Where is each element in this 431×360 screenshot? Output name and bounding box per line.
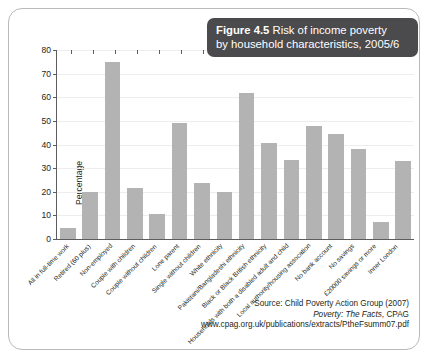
source-line-1: Source: Child Poverty Action Group (2007…: [139, 299, 409, 310]
bar: [328, 134, 344, 239]
figure-container: Figure 4.5 Risk of income poverty by hou…: [0, 0, 431, 360]
figure-title-banner: Figure 4.5 Risk of income poverty by hou…: [207, 18, 418, 57]
bar: [306, 126, 322, 239]
x-tick-mark: [115, 50, 116, 54]
y-tick-label: 40: [15, 140, 51, 149]
bar-series: [57, 50, 414, 239]
bar: [149, 214, 165, 239]
x-tick-mark: [137, 50, 138, 54]
source-url: www.cpag.org.uk/publications/extracts/Pt…: [139, 320, 409, 331]
figure-title-line1: Risk of income poverty: [269, 24, 386, 36]
y-tick-label: 30: [15, 164, 51, 173]
source-note: Source: Child Poverty Action Group (2007…: [139, 299, 409, 331]
bar: [127, 188, 143, 239]
bar: [172, 123, 188, 239]
y-tick-label: 80: [15, 46, 51, 55]
bar: [60, 228, 76, 239]
source-line-2: Poverty: The Facts, CPAG: [139, 310, 409, 321]
bar: [351, 149, 367, 239]
bar: [284, 160, 300, 239]
source-publisher: , CPAG: [382, 310, 409, 319]
bar: [217, 192, 233, 239]
bar: [395, 161, 411, 239]
x-tick-mark: [181, 50, 182, 54]
bar: [239, 93, 255, 239]
y-tick-label: 10: [15, 211, 51, 220]
chart-plot-area: Percentage 01020304050607080: [56, 50, 414, 240]
y-tick-label: 50: [15, 117, 51, 126]
x-tick-mark: [71, 50, 72, 54]
bar: [105, 62, 121, 239]
figure-number: Figure 4.5: [216, 24, 269, 36]
bar: [82, 192, 98, 239]
bar: [373, 222, 389, 239]
y-tick-label: 70: [15, 69, 51, 78]
x-tick-mark: [203, 50, 204, 54]
x-tick-mark: [93, 50, 94, 54]
x-tick-mark: [159, 50, 160, 54]
figure-title-line2: by household characteristics, 2005/6: [216, 38, 399, 50]
source-publication-title: Poverty: The Facts: [313, 310, 382, 319]
bar: [194, 183, 210, 239]
y-tick-mark: [53, 239, 57, 240]
bar: [261, 143, 277, 239]
y-tick-label: 60: [15, 93, 51, 102]
y-tick-label: 20: [15, 187, 51, 196]
